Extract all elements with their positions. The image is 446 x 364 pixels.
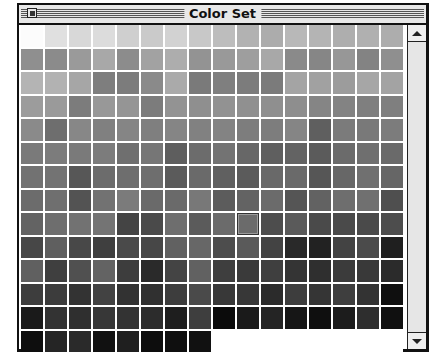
- color-swatch[interactable]: [381, 237, 403, 259]
- color-swatch[interactable]: [213, 25, 235, 47]
- color-swatch[interactable]: [45, 307, 67, 329]
- color-swatch[interactable]: [21, 190, 43, 212]
- color-swatch[interactable]: [309, 284, 331, 306]
- color-swatch[interactable]: [117, 143, 139, 165]
- color-swatch[interactable]: [117, 72, 139, 94]
- color-swatch[interactable]: [21, 213, 43, 235]
- color-swatch[interactable]: [141, 119, 163, 141]
- color-swatch[interactable]: [261, 25, 283, 47]
- color-swatch[interactable]: [117, 190, 139, 212]
- color-swatch[interactable]: [357, 119, 379, 141]
- color-swatch[interactable]: [141, 143, 163, 165]
- color-swatch[interactable]: [213, 284, 235, 306]
- color-swatch[interactable]: [117, 331, 139, 353]
- color-swatch[interactable]: [237, 213, 259, 235]
- color-swatch[interactable]: [333, 237, 355, 259]
- color-swatch[interactable]: [261, 284, 283, 306]
- color-swatch[interactable]: [285, 72, 307, 94]
- color-swatch[interactable]: [141, 331, 163, 353]
- color-swatch[interactable]: [381, 260, 403, 282]
- color-swatch[interactable]: [141, 72, 163, 94]
- color-swatch[interactable]: [21, 72, 43, 94]
- color-swatch[interactable]: [93, 25, 115, 47]
- color-swatch[interactable]: [333, 96, 355, 118]
- color-swatch[interactable]: [213, 166, 235, 188]
- color-swatch[interactable]: [165, 96, 187, 118]
- color-swatch[interactable]: [285, 284, 307, 306]
- color-swatch[interactable]: [189, 25, 211, 47]
- color-swatch[interactable]: [213, 307, 235, 329]
- color-swatch[interactable]: [213, 119, 235, 141]
- color-swatch[interactable]: [237, 119, 259, 141]
- color-swatch[interactable]: [285, 25, 307, 47]
- color-swatch[interactable]: [141, 213, 163, 235]
- color-swatch[interactable]: [213, 237, 235, 259]
- color-swatch[interactable]: [381, 190, 403, 212]
- color-swatch[interactable]: [357, 307, 379, 329]
- color-swatch[interactable]: [21, 143, 43, 165]
- color-swatch[interactable]: [21, 119, 43, 141]
- color-swatch[interactable]: [69, 72, 91, 94]
- color-swatch[interactable]: [213, 143, 235, 165]
- color-swatch[interactable]: [165, 190, 187, 212]
- color-swatch[interactable]: [285, 96, 307, 118]
- color-swatch[interactable]: [165, 143, 187, 165]
- color-swatch[interactable]: [165, 166, 187, 188]
- color-swatch[interactable]: [333, 49, 355, 71]
- color-swatch[interactable]: [189, 331, 211, 353]
- color-swatch[interactable]: [309, 96, 331, 118]
- color-swatch[interactable]: [21, 166, 43, 188]
- color-swatch[interactable]: [165, 49, 187, 71]
- color-swatch[interactable]: [309, 143, 331, 165]
- color-swatch[interactable]: [45, 143, 67, 165]
- color-swatch[interactable]: [357, 284, 379, 306]
- close-box-icon[interactable]: [27, 8, 37, 18]
- color-swatch[interactable]: [357, 260, 379, 282]
- color-swatch[interactable]: [285, 237, 307, 259]
- color-swatch[interactable]: [261, 213, 283, 235]
- color-swatch[interactable]: [93, 307, 115, 329]
- scroll-down-button[interactable]: [408, 332, 426, 349]
- color-swatch[interactable]: [309, 166, 331, 188]
- color-swatch[interactable]: [141, 96, 163, 118]
- color-swatch[interactable]: [69, 284, 91, 306]
- color-swatch[interactable]: [237, 96, 259, 118]
- color-swatch[interactable]: [309, 260, 331, 282]
- color-swatch[interactable]: [189, 119, 211, 141]
- color-swatch[interactable]: [333, 143, 355, 165]
- color-swatch[interactable]: [21, 307, 43, 329]
- color-swatch[interactable]: [285, 190, 307, 212]
- color-swatch[interactable]: [69, 331, 91, 353]
- color-swatch[interactable]: [93, 96, 115, 118]
- color-swatch[interactable]: [237, 143, 259, 165]
- color-swatch[interactable]: [213, 260, 235, 282]
- color-swatch[interactable]: [357, 96, 379, 118]
- color-swatch[interactable]: [45, 166, 67, 188]
- vertical-scrollbar[interactable]: [407, 25, 426, 349]
- color-swatch[interactable]: [237, 284, 259, 306]
- color-swatch[interactable]: [69, 166, 91, 188]
- color-swatch[interactable]: [45, 25, 67, 47]
- color-swatch[interactable]: [117, 49, 139, 71]
- color-swatch[interactable]: [45, 119, 67, 141]
- color-swatch[interactable]: [117, 307, 139, 329]
- color-swatch[interactable]: [213, 49, 235, 71]
- color-swatch[interactable]: [189, 49, 211, 71]
- color-swatch[interactable]: [333, 166, 355, 188]
- color-swatch[interactable]: [357, 190, 379, 212]
- color-swatch[interactable]: [165, 213, 187, 235]
- color-swatch[interactable]: [309, 119, 331, 141]
- color-swatch[interactable]: [381, 213, 403, 235]
- color-swatch[interactable]: [45, 260, 67, 282]
- color-swatch[interactable]: [261, 143, 283, 165]
- color-swatch[interactable]: [261, 49, 283, 71]
- color-swatch[interactable]: [381, 72, 403, 94]
- color-swatch[interactable]: [213, 72, 235, 94]
- color-swatch[interactable]: [189, 213, 211, 235]
- color-swatch[interactable]: [117, 284, 139, 306]
- color-swatch[interactable]: [69, 190, 91, 212]
- color-swatch[interactable]: [141, 260, 163, 282]
- color-swatch[interactable]: [117, 237, 139, 259]
- color-swatch[interactable]: [93, 237, 115, 259]
- color-swatch[interactable]: [381, 25, 403, 47]
